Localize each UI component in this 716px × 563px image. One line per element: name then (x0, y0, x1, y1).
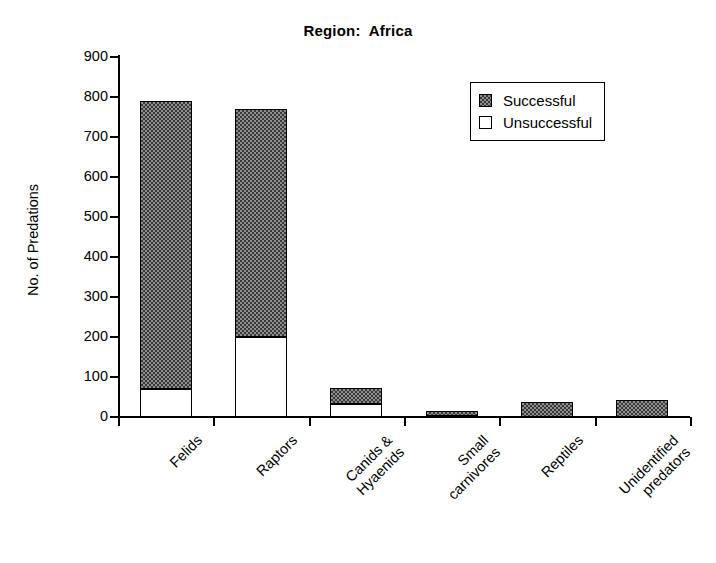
x-axis-tick (404, 417, 406, 426)
legend-label: Successful (503, 92, 576, 109)
bar-segment-successful[interactable] (521, 402, 573, 417)
bar-segment-successful[interactable] (616, 400, 668, 417)
legend-item: Unsuccessful (479, 111, 592, 133)
x-axis-tick (690, 417, 692, 426)
legend-swatch-successful (479, 94, 492, 107)
y-axis-tick-label: 600 (64, 169, 108, 183)
bar-segment-successful[interactable] (330, 388, 382, 404)
y-axis-tick-label: 800 (64, 89, 108, 103)
y-axis-tick-labels: 0100200300400500600700800900 (58, 0, 108, 563)
y-axis-title: No. of Predations (25, 145, 41, 335)
bar-segment-successful[interactable] (426, 411, 478, 416)
bar-group[interactable] (426, 411, 478, 417)
legend-label: Unsuccessful (503, 114, 592, 131)
x-axis-tick (213, 417, 215, 426)
y-axis-tick-label: 200 (64, 329, 108, 343)
x-axis-tick-label: Unidentified predators (564, 432, 694, 562)
bar-group[interactable] (140, 101, 192, 417)
y-axis-tick-label: 300 (64, 289, 108, 303)
bar-segment-unsuccessful[interactable] (235, 337, 287, 417)
bar-group[interactable] (521, 402, 573, 417)
bar-segment-successful[interactable] (140, 101, 192, 389)
chart-legend: SuccessfulUnsuccessful (470, 82, 605, 141)
bar-group[interactable] (330, 388, 382, 417)
bar-segment-unsuccessful[interactable] (330, 404, 382, 417)
bar-segment-successful[interactable] (235, 109, 287, 337)
y-axis-tick-label: 100 (64, 369, 108, 383)
bar-group[interactable] (616, 400, 668, 417)
bar-group[interactable] (235, 109, 287, 417)
y-axis-tick-label: 0 (64, 409, 108, 423)
bar-segment-unsuccessful[interactable] (140, 389, 192, 417)
y-axis-tick-label: 900 (64, 49, 108, 63)
y-axis-tick-label: 500 (64, 209, 108, 223)
legend-swatch-unsuccessful (479, 116, 492, 129)
y-axis-tick-label: 700 (64, 129, 108, 143)
x-axis-tick (499, 417, 501, 426)
x-axis-tick (118, 417, 120, 426)
chart-figure: Region: Africa No. of Predations 0100200… (0, 0, 716, 563)
x-axis-tick (595, 417, 597, 426)
y-axis-tick-label: 400 (64, 249, 108, 263)
x-axis-tick (309, 417, 311, 426)
legend-item: Successful (479, 89, 592, 111)
